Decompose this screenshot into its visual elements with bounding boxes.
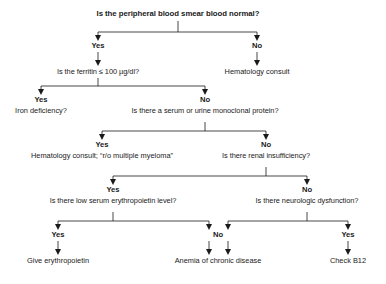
branch-label-l3-yes: Yes <box>95 141 108 149</box>
branch-label-l3-no: No <box>261 141 271 149</box>
flowchart-diagram: Is the peripheral blood smear blood norm… <box>0 0 386 284</box>
branch-label-l5-left-no: No <box>213 231 223 239</box>
node-give-erythropoietin: Give erythropoietin <box>27 257 89 265</box>
branch-label-l2-no: No <box>200 96 210 104</box>
node-neurologic-dysfunction-question: Is there neurologic dysfunction? <box>256 197 359 205</box>
root-question: Is the peripheral blood smear blood norm… <box>97 10 260 18</box>
node-myeloma-consult: Hematology consult; “r/o multiple myelom… <box>31 152 173 160</box>
branch-label-l5-right-yes: Yes <box>341 231 354 239</box>
node-renal-insufficiency-question: Is there renal insufficiency? <box>222 152 310 160</box>
branch-label-l1-no: No <box>252 42 262 50</box>
branch-label-l2-yes: Yes <box>34 96 47 104</box>
node-iron-deficiency: Iron deficiency? <box>15 107 67 115</box>
node-hematology-consult: Hematology consult <box>225 68 290 76</box>
branch-label-l4-yes: Yes <box>106 186 119 194</box>
node-monoclonal-protein-question: Is there a serum or urine monoclonal pro… <box>132 107 279 115</box>
node-check-b12: Check B12 <box>330 257 366 265</box>
node-ferritin-question: Is the ferritin ≤ 100 µg/dl? <box>57 68 139 76</box>
branch-label-l1-yes: Yes <box>91 42 104 50</box>
branch-label-l5-left-yes: Yes <box>51 231 64 239</box>
flowchart-connectors <box>0 0 386 284</box>
node-erythropoietin-question: Is there low serum erythropoietin level? <box>50 197 177 205</box>
node-anemia-chronic-disease: Anemia of chronic disease <box>175 257 262 265</box>
branch-label-l4-no: No <box>302 186 312 194</box>
